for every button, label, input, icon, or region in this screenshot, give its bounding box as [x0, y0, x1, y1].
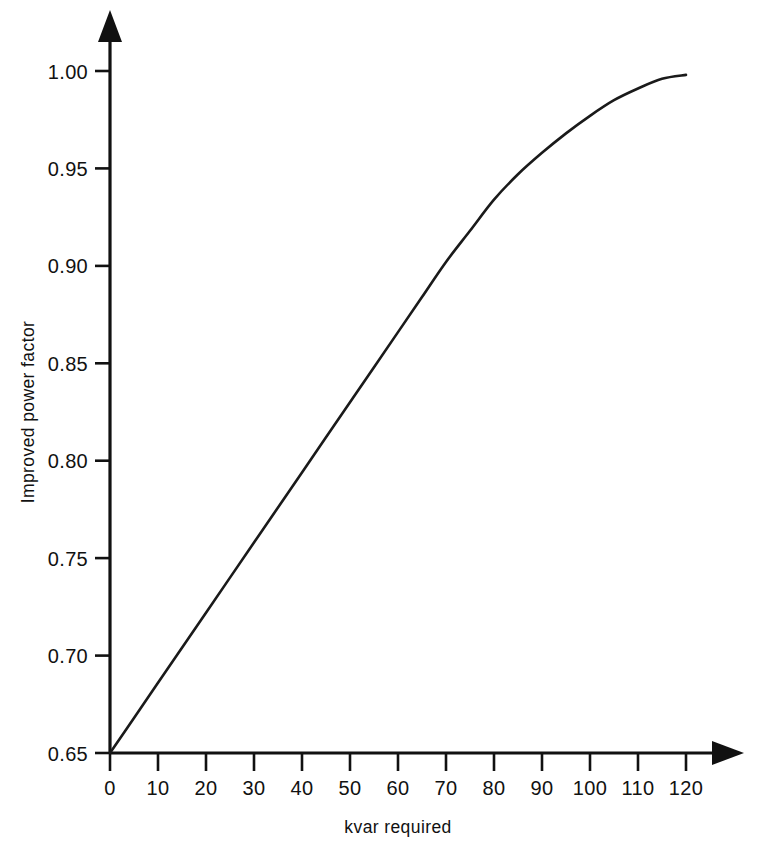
x-axis-title: kvar required — [344, 817, 451, 837]
x-tick-label-12: 120 — [669, 777, 703, 799]
x-tick-label-5: 50 — [339, 777, 362, 799]
x-tick-label-1: 10 — [147, 777, 170, 799]
y-tick-label-6: 0.95 — [48, 158, 88, 180]
y-tick-label-4: 0.85 — [48, 353, 88, 375]
y-tick-label-1: 0.70 — [48, 645, 88, 667]
x-tick-label-10: 100 — [573, 777, 607, 799]
y-tick-label-0: 0.65 — [48, 743, 88, 765]
x-tick-label-3: 30 — [243, 777, 266, 799]
x-axis-tick-labels: 0 10 20 30 40 50 60 70 80 90 100 110 120 — [104, 777, 703, 799]
x-tick-label-6: 60 — [387, 777, 410, 799]
y-tick-label-3: 0.80 — [48, 450, 88, 472]
x-axis-ticks — [110, 753, 686, 771]
chart-figure: 0.65 0.70 0.75 0.80 0.85 0.90 0.95 1.00 — [0, 0, 767, 862]
x-axis-arrow-icon — [712, 741, 744, 765]
y-tick-label-7: 1.00 — [48, 61, 88, 83]
y-axis-arrow-icon — [98, 10, 122, 42]
y-tick-label-5: 0.90 — [48, 255, 88, 277]
power-factor-line-chart: 0.65 0.70 0.75 0.80 0.85 0.90 0.95 1.00 — [0, 0, 767, 862]
y-tick-label-2: 0.75 — [48, 548, 88, 570]
y-axis-ticks — [95, 71, 110, 753]
x-tick-label-4: 40 — [291, 777, 314, 799]
power-factor-curve — [110, 75, 686, 753]
x-tick-label-0: 0 — [104, 777, 115, 799]
x-tick-label-11: 110 — [622, 777, 655, 799]
x-tick-label-7: 70 — [435, 777, 458, 799]
x-tick-label-8: 80 — [483, 777, 506, 799]
x-tick-label-2: 20 — [195, 777, 218, 799]
x-tick-label-9: 90 — [531, 777, 554, 799]
y-axis-tick-labels: 0.65 0.70 0.75 0.80 0.85 0.90 0.95 1.00 — [48, 61, 88, 765]
y-axis-title: Improved power factor — [18, 321, 38, 504]
